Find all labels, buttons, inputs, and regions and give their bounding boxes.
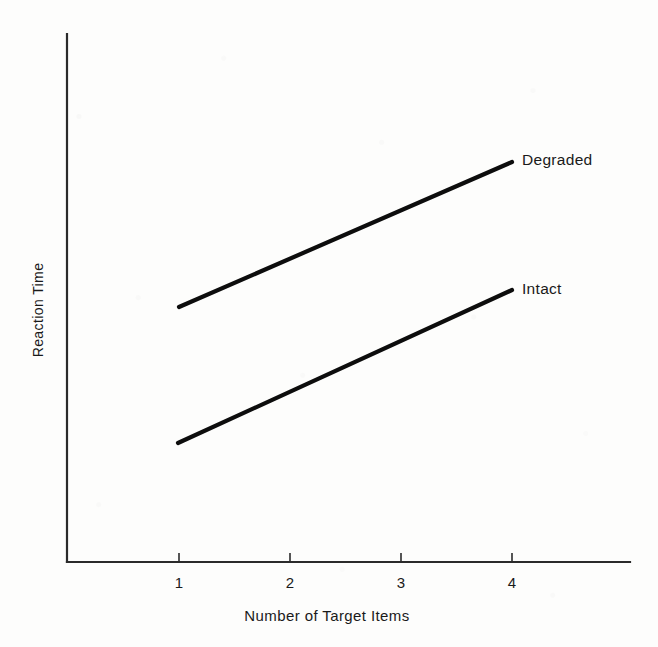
y-axis-title: Reaction Time xyxy=(30,263,46,358)
x-tick-label-3: 3 xyxy=(397,574,406,591)
x-tick-label-1: 1 xyxy=(175,574,184,591)
x-axis-title: Number of Target Items xyxy=(244,607,409,624)
series-label-degraded: Degraded xyxy=(522,151,592,169)
x-tick-label-2: 2 xyxy=(286,574,295,591)
line-chart-figure: 1 2 3 4 Degraded Intact Number of Target… xyxy=(0,0,658,647)
series-line-degraded xyxy=(179,162,512,307)
series-line-intact xyxy=(178,290,512,443)
series-label-intact: Intact xyxy=(522,280,562,298)
plot-canvas xyxy=(0,0,658,647)
x-tick-label-4: 4 xyxy=(508,574,517,591)
